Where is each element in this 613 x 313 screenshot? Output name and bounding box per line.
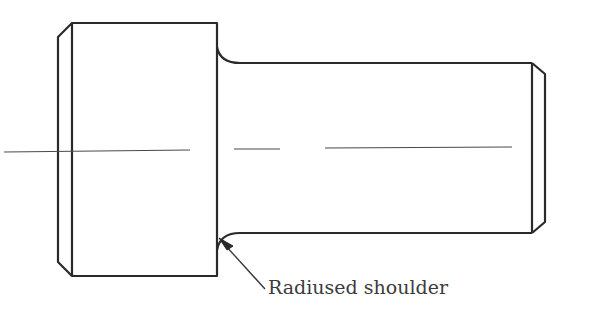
centerline bbox=[4, 147, 512, 152]
shank-bottom-edge bbox=[217, 233, 532, 250]
leader-arrow bbox=[219, 238, 265, 289]
head bbox=[58, 23, 217, 276]
annotation-label: Radiused shoulder bbox=[268, 276, 448, 298]
head-outline bbox=[72, 23, 217, 276]
shank-end-chamfer bbox=[532, 63, 545, 233]
arrowhead-icon bbox=[219, 238, 233, 250]
shaft-drawing bbox=[0, 0, 613, 313]
shank-top-edge bbox=[217, 47, 532, 63]
head-left-chamfer bbox=[58, 23, 72, 276]
